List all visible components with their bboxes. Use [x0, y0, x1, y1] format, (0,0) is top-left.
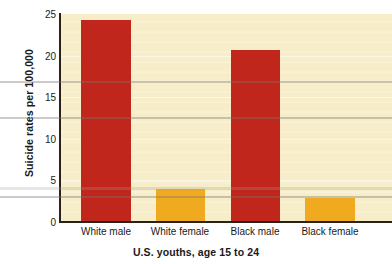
- y-tick-label-20: 20: [30, 50, 56, 61]
- y-tick-label-25: 25: [30, 9, 56, 20]
- plot-area: [60, 14, 392, 222]
- x-axis-title: U.S. youths, age 15 to 24: [0, 246, 392, 258]
- bar-black-male: [231, 50, 280, 222]
- y-tick-label-10: 10: [30, 133, 56, 144]
- x-tick-label-white-male: White male: [81, 226, 131, 237]
- y-tick-label-15: 15: [30, 92, 56, 103]
- bar-white-male: [81, 20, 131, 222]
- bar-white-female: [156, 189, 205, 222]
- x-tick-label-black-female: Black female: [301, 226, 358, 237]
- y-tick-label-0: 0: [30, 217, 56, 228]
- x-axis-tick-labels: White male White female Black male Black…: [60, 226, 392, 242]
- x-tick-label-white-female: White female: [151, 226, 209, 237]
- x-axis-line: [59, 221, 392, 223]
- y-tick-label-5: 5: [30, 175, 56, 186]
- bar-chart-figure: Suicide rates per 100,000 0 5 10 15 20 2…: [0, 0, 392, 264]
- bar-black-female: [305, 198, 355, 222]
- x-tick-label-black-male: Black male: [231, 226, 280, 237]
- y-axis-tick-labels: 0 5 10 15 20 25: [30, 0, 56, 264]
- y-axis-line: [59, 13, 61, 223]
